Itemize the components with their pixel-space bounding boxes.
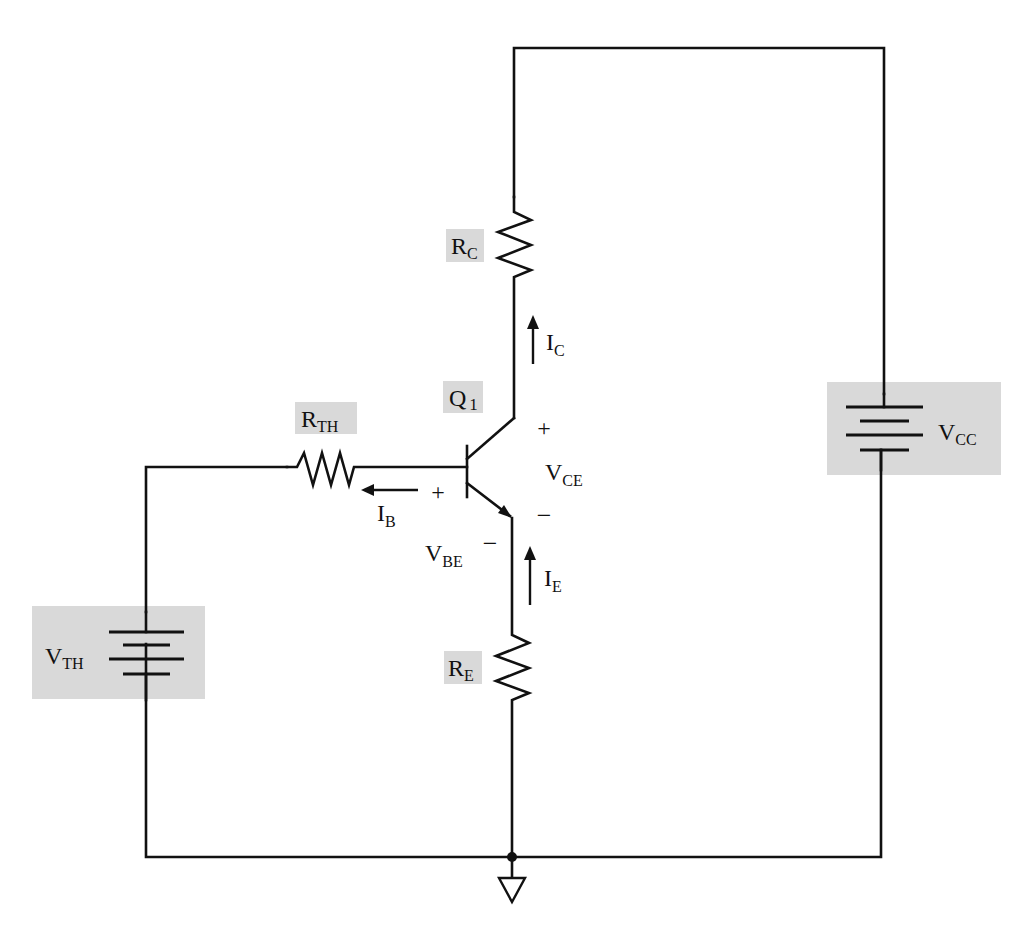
vbe-plus-sign: + — [431, 479, 445, 505]
vcc-label-box — [827, 382, 1001, 475]
vbe-label: VBE — [425, 540, 463, 570]
wire-top-loop — [514, 48, 884, 394]
resistor-rc — [498, 197, 531, 418]
arrow-ib-icon — [361, 484, 418, 496]
collector-lead — [467, 418, 514, 459]
arrow-ic-icon — [527, 315, 539, 364]
resistor-re — [496, 518, 529, 857]
ib-label: IB — [377, 500, 396, 530]
wire-right-lower — [146, 450, 881, 857]
vce-minus-sign: − — [537, 501, 552, 530]
circuit-diagram: + − + − RTH RC Q1 RE VTH VCC IB IC IE VB… — [0, 0, 1036, 932]
vce-label: VCE — [545, 459, 583, 489]
transistor-q1 — [467, 418, 514, 518]
vce-plus-sign: + — [537, 415, 551, 441]
wire-left-upper — [146, 467, 287, 612]
vbe-minus-sign: − — [483, 529, 498, 558]
ground-icon — [499, 857, 525, 902]
ic-label: IC — [546, 329, 565, 359]
ie-label: IE — [544, 565, 562, 595]
arrow-ie-icon — [524, 546, 536, 605]
